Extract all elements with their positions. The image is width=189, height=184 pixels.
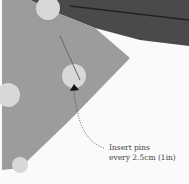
annotation-line2: every 2.5cm (1in) [109,153,176,163]
annotation-label: Insert pins every 2.5cm (1in) [109,143,176,163]
annotation-line1: Insert pins [109,143,176,153]
